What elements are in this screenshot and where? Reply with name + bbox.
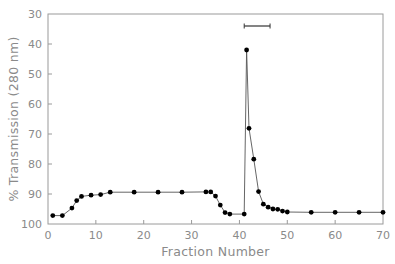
chart: 30405060708090100 010203040506070 Fracti… (0, 0, 395, 264)
data-point (280, 209, 285, 214)
x-tick-label: 20 (137, 229, 151, 242)
plot-frame (48, 14, 383, 224)
data-point (247, 126, 252, 131)
x-tick-label: 70 (376, 229, 390, 242)
data-point (70, 206, 75, 211)
data-point (275, 207, 280, 212)
x-axis-label: Fraction Number (161, 244, 270, 259)
data-point (285, 210, 290, 215)
y-tick-label: 60 (28, 98, 42, 111)
data-point (98, 192, 103, 197)
y-tick-label: 100 (21, 218, 42, 231)
data-point (266, 205, 271, 210)
y-axis-ticks: 30405060708090100 (21, 8, 52, 231)
data-points (50, 48, 385, 218)
data-point (108, 190, 113, 195)
data-point (180, 190, 185, 195)
y-axis-label: % Transmission (280 nm) (6, 36, 21, 201)
data-point (244, 48, 249, 53)
data-point (223, 210, 228, 215)
data-point (89, 193, 94, 198)
x-tick-label: 0 (45, 229, 52, 242)
data-point (74, 198, 79, 203)
x-tick-label: 50 (280, 229, 294, 242)
y-tick-label: 30 (28, 8, 42, 21)
y-tick-label: 40 (28, 38, 42, 51)
data-line (53, 50, 383, 216)
x-tick-label: 30 (185, 229, 199, 242)
x-tick-label: 40 (232, 229, 246, 242)
data-point (156, 190, 161, 195)
data-point (256, 189, 261, 194)
data-point (60, 213, 65, 218)
data-point (261, 202, 266, 207)
data-point (309, 210, 314, 215)
x-tick-label: 10 (89, 229, 103, 242)
data-point (79, 194, 84, 199)
data-point (50, 213, 55, 218)
data-point (208, 190, 213, 195)
data-point (132, 190, 137, 195)
data-point (213, 194, 218, 199)
y-tick-label: 50 (28, 68, 42, 81)
data-point (204, 190, 209, 195)
data-point (357, 210, 362, 215)
data-point (251, 157, 256, 162)
data-point (227, 212, 232, 217)
x-axis-ticks: 010203040506070 (45, 220, 391, 242)
data-point (218, 203, 223, 208)
y-tick-label: 70 (28, 128, 42, 141)
y-tick-label: 90 (28, 188, 42, 201)
data-point (271, 207, 276, 212)
range-bar-annotation (244, 24, 270, 29)
x-tick-label: 60 (328, 229, 342, 242)
data-point (381, 210, 386, 215)
data-point (333, 210, 338, 215)
y-tick-label: 80 (28, 158, 42, 171)
data-point (242, 212, 247, 217)
